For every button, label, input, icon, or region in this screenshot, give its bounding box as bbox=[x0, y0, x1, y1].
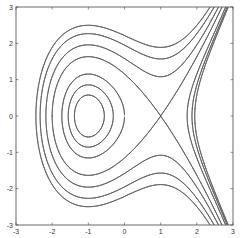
y-tick-label: 3 bbox=[9, 4, 13, 11]
y-tick-label: -1 bbox=[7, 149, 13, 156]
contour-level-line bbox=[52, 7, 222, 225]
x-tick-label: 3 bbox=[231, 228, 235, 235]
contour-level-line bbox=[68, 7, 227, 225]
contour-level-line bbox=[46, 7, 219, 225]
y-tick-label: 1 bbox=[9, 76, 13, 83]
y-tick-label: 0 bbox=[9, 113, 13, 120]
phase-portrait-chart: -3-2-10123 -3-2-10123 bbox=[0, 0, 244, 238]
x-tick-label: -2 bbox=[49, 228, 55, 235]
x-tick-label: -3 bbox=[13, 228, 19, 235]
y-tick-label: -2 bbox=[7, 185, 13, 192]
x-tick-label: 2 bbox=[195, 228, 199, 235]
x-tick-label: 0 bbox=[123, 228, 127, 235]
contour-lines bbox=[36, 7, 228, 225]
x-tick-label: -1 bbox=[85, 228, 91, 235]
x-tick-label: 1 bbox=[159, 228, 163, 235]
y-axis-ticks: -3-2-10123 bbox=[7, 4, 233, 229]
contour-level-line bbox=[74, 7, 228, 225]
y-tick-label: -3 bbox=[7, 222, 13, 229]
contour-level-line bbox=[62, 7, 226, 225]
y-tick-label: 2 bbox=[9, 40, 13, 47]
contour-level-line bbox=[40, 7, 214, 225]
